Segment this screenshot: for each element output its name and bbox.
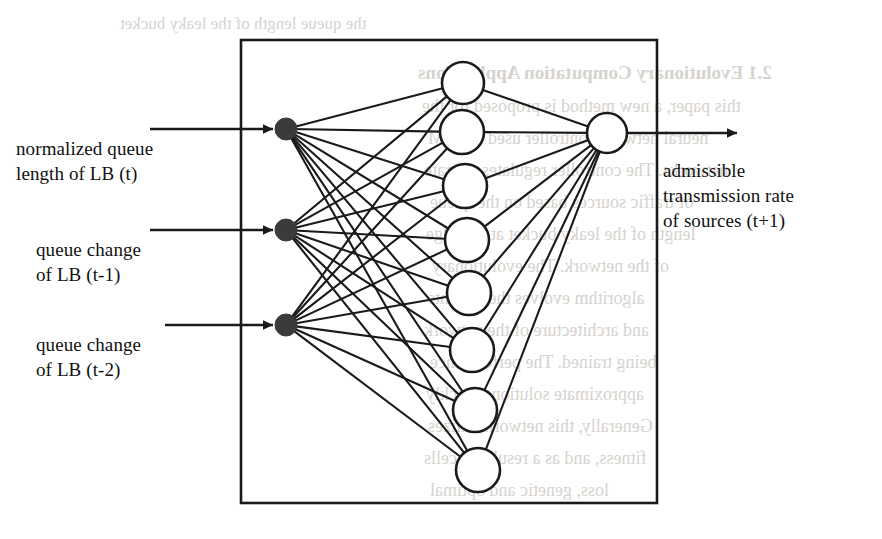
edge-input3-hidden1 bbox=[289, 100, 451, 321]
output-node bbox=[587, 113, 627, 153]
input-label-2: queue change of LB (t-1) bbox=[36, 237, 141, 287]
edge-input1-hidden2 bbox=[290, 129, 440, 132]
input-label-1: normalized queue length of LB (t) bbox=[16, 136, 153, 186]
hidden-node-6 bbox=[450, 328, 494, 372]
edge-hidden1-output bbox=[483, 90, 588, 127]
hidden-node-4 bbox=[445, 218, 489, 262]
edge-hidden6-output bbox=[484, 150, 597, 331]
edge-input1-hidden1 bbox=[290, 88, 442, 128]
input-label-3: queue change of LB (t-2) bbox=[36, 332, 141, 382]
hidden-node-8 bbox=[456, 448, 500, 492]
hidden-node-7 bbox=[453, 388, 497, 432]
hidden-layer-nodes bbox=[440, 62, 500, 492]
edge-input2-hidden3 bbox=[290, 191, 443, 229]
output-label: admissible transmission rate of sources … bbox=[663, 158, 794, 233]
input-node-2 bbox=[275, 219, 297, 241]
input-layer-nodes bbox=[275, 118, 297, 336]
output-layer-node bbox=[587, 113, 627, 153]
hidden-node-2 bbox=[440, 110, 484, 154]
input-node-3 bbox=[275, 314, 297, 336]
edge-hidden7-output bbox=[484, 151, 598, 390]
edge-hidden2-output bbox=[484, 132, 587, 133]
hidden-node-3 bbox=[443, 164, 487, 208]
hidden-node-5 bbox=[447, 271, 491, 315]
io-arrows bbox=[150, 129, 737, 325]
edge-input1-hidden7 bbox=[288, 133, 462, 392]
input-node-1 bbox=[275, 118, 297, 140]
hidden-node-1 bbox=[442, 62, 484, 104]
